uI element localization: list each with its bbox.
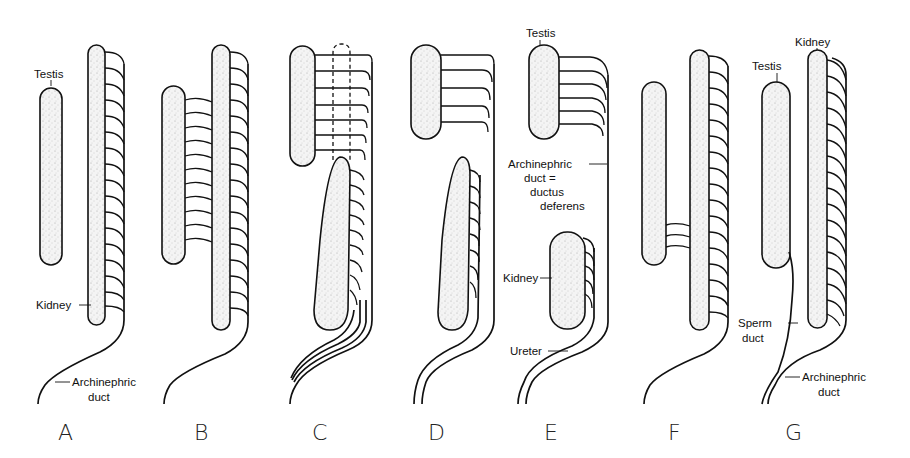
panel-label-e: E — [544, 420, 558, 445]
label-testis-g: Testis — [752, 60, 782, 72]
panel-f: F — [642, 50, 728, 445]
kidney-d — [438, 157, 470, 330]
panel-c: C — [290, 44, 372, 445]
panel-label-g: G — [785, 420, 802, 445]
panel-a: Testis Kidney Archinephric duct A — [34, 45, 136, 445]
panel-label-a: A — [58, 420, 73, 445]
testis-tubules-d — [441, 55, 494, 132]
label-ureter-e: Ureter — [510, 345, 542, 357]
panel-label-f: F — [668, 420, 681, 445]
kidney-e — [550, 232, 585, 329]
degenerate-kidney-outline-c — [333, 44, 350, 160]
testis-c — [290, 46, 315, 166]
label-kidney-a: Kidney — [36, 299, 71, 311]
connecting-tubule-f-2 — [666, 235, 690, 237]
panel-d: D — [411, 45, 494, 445]
connecting-tubules-b — [185, 98, 212, 242]
kidney-f — [690, 50, 709, 330]
testis-tubules-c — [315, 55, 372, 160]
testis-e — [529, 45, 559, 139]
testis-tubules-e — [559, 57, 608, 136]
connecting-tubule-f-3 — [666, 246, 690, 248]
panel-label-d: D — [428, 420, 445, 445]
testis-b — [162, 86, 185, 264]
figure-canvas: Testis Kidney Archinephric duct A — [0, 0, 910, 458]
label-archinephric-e-2: duct = — [524, 172, 556, 184]
testis-f — [642, 82, 666, 265]
testis-d — [411, 45, 441, 139]
panel-e: Testis Archinephric duct = ductus defere… — [503, 27, 608, 445]
kidney-tubules-c — [350, 170, 364, 305]
panel-label-c: C — [312, 420, 327, 445]
label-archinephric-a-1: Archinephric — [72, 376, 136, 388]
testis-g — [762, 82, 790, 268]
label-kidney-g: Kidney — [795, 36, 830, 48]
kidney-a — [88, 45, 105, 325]
connecting-tubule-f-1 — [666, 224, 690, 226]
label-testis-a: Testis — [34, 68, 64, 80]
label-testis-e: Testis — [526, 27, 556, 39]
label-archinephric-g-1: Archinephric — [802, 371, 866, 383]
panel-b: B — [162, 45, 248, 445]
label-sperm-duct-g-1: Sperm — [738, 317, 772, 329]
label-archinephric-e-4: deferens — [540, 200, 585, 212]
kidney-c — [314, 157, 350, 330]
testis-a — [40, 88, 62, 265]
label-archinephric-g-2: duct — [818, 386, 841, 398]
panel-g: Testis Kidney Sperm duct — [738, 36, 866, 445]
label-archinephric-e-3: ductus — [530, 186, 564, 198]
tubules-g — [827, 60, 846, 326]
tubules-f — [709, 56, 728, 318]
label-archinephric-e-1: Archinephric — [508, 158, 572, 170]
tubules-b — [230, 52, 248, 316]
label-sperm-duct-g-2: duct — [742, 332, 765, 344]
label-archinephric-a-2: duct — [88, 391, 111, 403]
panel-label-b: B — [194, 420, 208, 445]
label-kidney-e: Kidney — [503, 272, 538, 284]
kidney-b — [212, 45, 230, 330]
kidney-g — [808, 50, 827, 328]
tubules-a — [105, 52, 124, 312]
